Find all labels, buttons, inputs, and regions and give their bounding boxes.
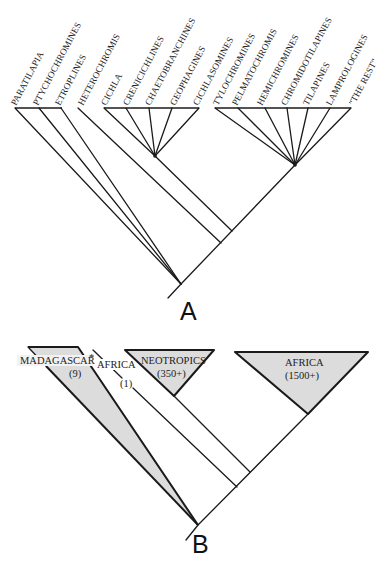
african-polytomy: [215, 108, 351, 167]
neotropics-count: (350+): [157, 368, 186, 380]
africa-1-count: (1): [120, 378, 133, 390]
neotropics-stem: [174, 396, 250, 472]
basal-branches: [15, 108, 181, 284]
panel-a-spine: [181, 165, 295, 284]
panel-b: MADAGASCAR * (9) AFRICA (1) NEOTROPICS (…: [17, 347, 368, 558]
africa-1500-label: AFRICA: [285, 357, 324, 368]
panel-a-root-stem: [168, 284, 181, 298]
neotropical-stem: [155, 156, 232, 231]
panel-b-letter: B: [192, 530, 209, 558]
phylogeny-figure: PARATILAPIA PTYCHOCHROMINES ETROPLINES H…: [0, 0, 389, 565]
panel-b-spine: [198, 414, 308, 525]
neotropics-label: NEOTROPICS: [141, 355, 206, 366]
panel-a-letter: A: [180, 297, 197, 325]
heterochromis-branch: [78, 108, 221, 243]
tip-label-lamprologines: LAMPROLOGINES: [324, 33, 370, 107]
madagascar-count: (9): [69, 368, 82, 380]
panel-a-tip-labels: PARATILAPIA PTYCHOCHROMINES ETROPLINES H…: [9, 16, 380, 107]
tip-label-heterochromis: HETEROCHROMIS: [76, 32, 122, 107]
africa-1500-count: (1500+): [285, 370, 319, 382]
madagascar-marker: *: [89, 352, 94, 363]
africa-1-label: AFRICA: [97, 359, 136, 370]
panel-a: PARATILAPIA PTYCHOCHROMINES ETROPLINES H…: [9, 16, 380, 325]
madagascar-label: MADAGASCAR: [20, 355, 95, 366]
